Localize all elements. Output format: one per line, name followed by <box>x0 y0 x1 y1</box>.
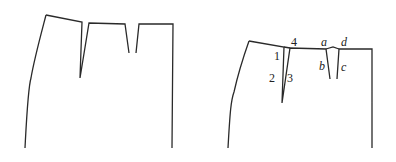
label-d: d <box>341 35 348 49</box>
right-waistline-with-darts <box>249 41 372 148</box>
label-4: 4 <box>291 35 297 49</box>
label-a: a <box>321 35 327 49</box>
left-side-seam <box>25 15 46 148</box>
diagram-canvas: 1 2 3 4 a b c d <box>0 0 396 162</box>
label-3: 3 <box>287 71 293 85</box>
left-skirt-pattern <box>25 15 173 148</box>
dart1-fold-line <box>284 47 290 48</box>
dart-fold-bump <box>326 47 339 49</box>
label-2: 2 <box>269 71 275 85</box>
skirt-pattern-diagram: 1 2 3 4 a b c d <box>0 0 396 162</box>
label-c: c <box>341 60 347 74</box>
left-waistline-with-darts <box>46 15 173 148</box>
right-side-seam <box>228 41 249 148</box>
label-1: 1 <box>274 49 280 63</box>
label-b: b <box>319 59 325 73</box>
right-skirt-pattern: 1 2 3 4 a b c d <box>228 35 372 148</box>
